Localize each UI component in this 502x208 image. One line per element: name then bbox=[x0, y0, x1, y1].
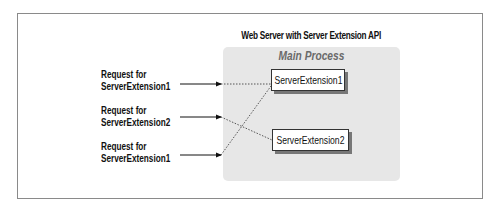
request-3-label: Request for ServerExtension1 bbox=[101, 141, 170, 165]
main-process-box bbox=[223, 47, 400, 181]
request-3-line1: Request for bbox=[101, 141, 170, 153]
server-extension-2-label: ServerExtension2 bbox=[277, 134, 345, 146]
request-2-label: Request for ServerExtension2 bbox=[101, 105, 170, 129]
diagram-title: Web Server with Server Extension API bbox=[241, 30, 380, 41]
request-1-line1: Request for bbox=[101, 69, 170, 81]
server-extension-1-box: ServerExtension1 bbox=[271, 69, 345, 91]
request-2-line1: Request for bbox=[101, 105, 170, 117]
server-extension-2-box: ServerExtension2 bbox=[272, 129, 349, 151]
request-2-line2: ServerExtension2 bbox=[101, 117, 170, 129]
request-1-label: Request for ServerExtension1 bbox=[101, 69, 170, 93]
request-3-line2: ServerExtension1 bbox=[101, 153, 170, 165]
main-process-label: Main Process bbox=[236, 49, 386, 63]
request-1-line2: ServerExtension1 bbox=[101, 81, 170, 93]
server-extension-1-label: ServerExtension1 bbox=[274, 74, 342, 86]
